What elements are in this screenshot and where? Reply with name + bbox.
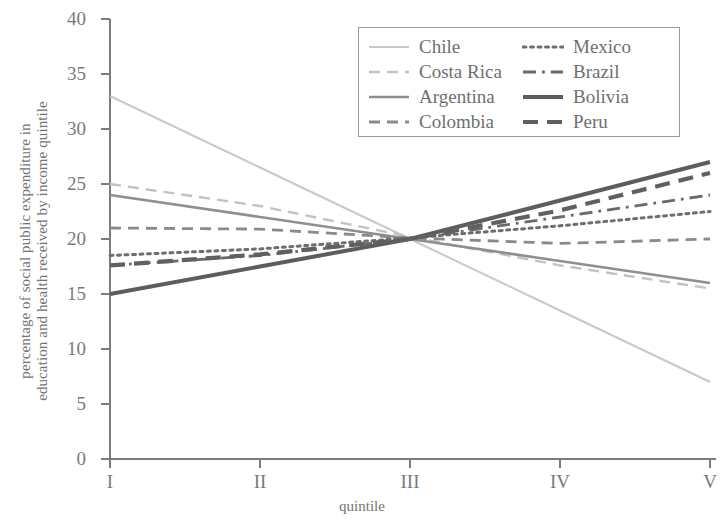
legend-label: Chile [419, 37, 460, 56]
series-line-brazil [110, 195, 710, 265]
legend-item-bolivia[interactable]: Bolivia [522, 84, 672, 109]
legend-item-mexico[interactable]: Mexico [522, 34, 672, 59]
legend-item-brazil[interactable]: Brazil [522, 59, 672, 84]
legend-swatch-bolivia-icon [522, 90, 564, 104]
legend-swatch-chile-icon [368, 40, 410, 54]
legend-label: Argentina [419, 87, 495, 106]
legend-swatch-argentina-icon [368, 90, 410, 104]
x-axis-tick-marks [110, 459, 710, 468]
legend-box: ChileCosta RicaArgentinaColombia MexicoB… [358, 27, 680, 137]
legend-swatch-mexico-icon [522, 40, 564, 54]
data-series-layer [110, 96, 710, 382]
legend-label: Costa Rica [419, 62, 502, 81]
legend-swatch-costa-rica-icon [368, 65, 410, 79]
legend-label: Bolivia [573, 87, 629, 106]
series-line-costa-rica [110, 184, 710, 289]
legend-item-peru[interactable]: Peru [522, 109, 672, 134]
legend-item-costa-rica[interactable]: Costa Rica [368, 59, 518, 84]
legend-label: Mexico [573, 37, 631, 56]
legend-label: Peru [573, 112, 608, 131]
legend-column-left: ChileCosta RicaArgentinaColombia [368, 34, 518, 134]
y-axis-tick-marks [101, 19, 110, 459]
legend-item-colombia[interactable]: Colombia [368, 109, 518, 134]
legend-label: Brazil [573, 62, 619, 81]
series-line-mexico [110, 212, 710, 256]
legend-item-chile[interactable]: Chile [368, 34, 518, 59]
legend-label: Colombia [419, 112, 494, 131]
legend-item-argentina[interactable]: Argentina [368, 84, 518, 109]
chart-figure: percentage of social public expenditure … [0, 0, 724, 526]
legend-swatch-colombia-icon [368, 115, 410, 129]
legend-column-right: MexicoBrazilBoliviaPeru [522, 34, 672, 134]
series-line-bolivia [110, 162, 710, 294]
legend-swatch-peru-icon [522, 115, 564, 129]
legend-swatch-brazil-icon [522, 65, 564, 79]
